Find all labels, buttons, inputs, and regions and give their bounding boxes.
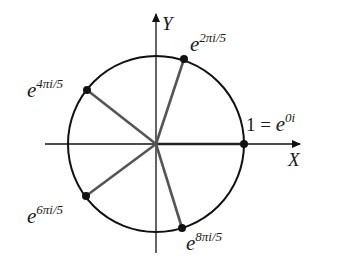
point-e0 <box>240 140 248 148</box>
point-e6 <box>82 192 90 200</box>
y-axis-label: Y <box>162 13 175 34</box>
label-e0: 1 = e0i <box>246 110 296 136</box>
point-e4 <box>83 86 91 94</box>
label-e6: e6πi/5 <box>27 202 64 228</box>
point-e8 <box>178 224 186 232</box>
label-e2: e2πi/5 <box>190 30 227 56</box>
label-e4: e4πi/5 <box>27 76 64 102</box>
spoke-e6 <box>86 144 156 196</box>
x-axis-label: X <box>287 149 301 170</box>
point-e2 <box>180 55 188 63</box>
spoke-e8 <box>156 144 182 228</box>
roots-of-unity-diagram: Y X 1 = e0i e2πi/5 e4πi/5 e6πi/5 e8πi/5 <box>0 0 339 273</box>
spoke-e4 <box>87 90 156 144</box>
spoke-e2 <box>156 59 184 144</box>
label-e8: e8πi/5 <box>186 229 223 255</box>
